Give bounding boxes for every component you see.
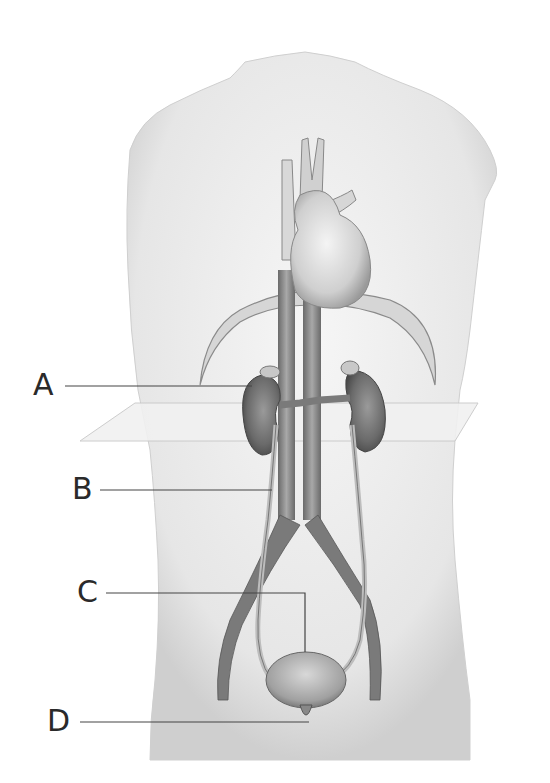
label-a: A [33,370,54,400]
abdominal-aorta [303,270,321,520]
urinary-bladder [266,652,346,708]
right-adrenal-gland [341,361,359,375]
left-adrenal-gland [260,366,280,378]
label-d: D [47,706,70,736]
urinary-system-diagram [0,0,550,783]
label-b: B [72,474,93,504]
label-c: C [77,577,98,607]
